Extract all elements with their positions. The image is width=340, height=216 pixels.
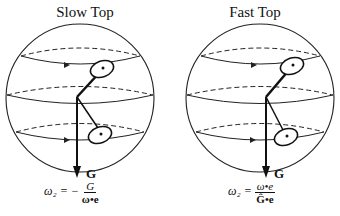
slow-top-formula: ω₂ = − G ω•e xyxy=(44,180,99,205)
numerator: G xyxy=(84,180,96,193)
formula-sign: − xyxy=(71,184,79,198)
formula-lhs: ω₂ = xyxy=(44,184,68,198)
slow-top-panel: Slow Top G ω₂ = − G ω•e xyxy=(0,0,170,216)
vector-label: G xyxy=(274,166,284,182)
fraction: ω•e Ĝ•e xyxy=(255,180,276,205)
fast-top-panel: Fast Top G ω₂ = ω•e Ĝ•e xyxy=(170,0,340,216)
numerator: ω•e xyxy=(255,180,276,193)
fraction: G ω•e xyxy=(82,180,99,205)
formula-lhs: ω₂ = xyxy=(228,184,252,198)
denominator: ω•e xyxy=(82,193,99,205)
fast-top-formula: ω₂ = ω•e Ĝ•e xyxy=(228,180,275,205)
denominator: Ĝ•e xyxy=(256,193,273,205)
